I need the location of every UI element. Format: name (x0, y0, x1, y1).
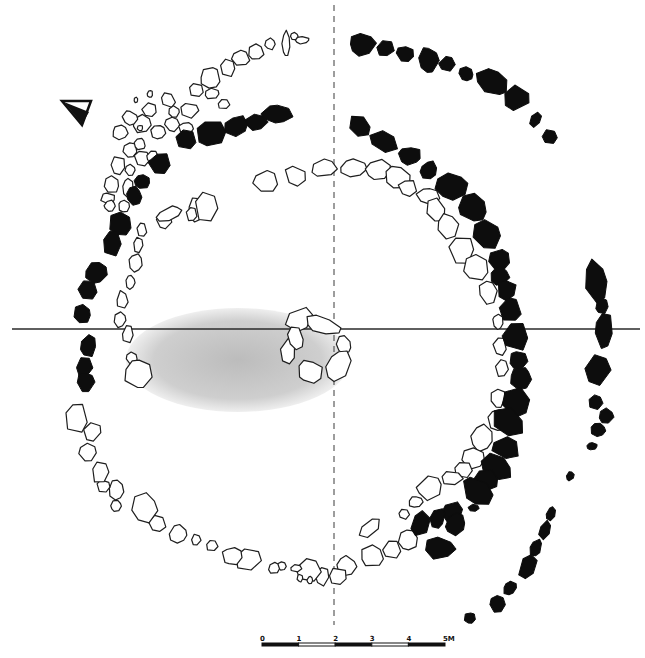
inner-ring-stone (192, 534, 201, 545)
inner-ring-stone (399, 509, 410, 519)
rubble-stone (221, 59, 235, 76)
kerb-stone (366, 127, 401, 156)
scale-segment (408, 643, 445, 646)
kerb-stone (499, 298, 521, 321)
kerb-stone (349, 31, 378, 57)
kerb-stone (426, 537, 457, 559)
outer-stone (490, 596, 506, 613)
inner-ring-stone (341, 159, 367, 177)
inner-ring-stone (66, 404, 87, 432)
scale-label: 4 (406, 635, 411, 643)
rubble-stone (265, 38, 275, 50)
inner-ring-stone (356, 514, 383, 541)
inner-ring-stone (330, 568, 347, 584)
inner-ring-stone (186, 208, 197, 221)
inner-ring-stone (117, 291, 128, 309)
inner-ring-stone (111, 500, 122, 511)
kerb-stone (78, 281, 97, 299)
rubble-stone (113, 125, 128, 140)
outer-stone (464, 613, 475, 623)
scale-label: 3 (370, 635, 375, 643)
inner-ring-stone (383, 541, 401, 558)
scale-label: 0 (260, 635, 265, 643)
north-arrow-icon (62, 101, 91, 125)
rubble-stone (134, 138, 145, 149)
rubble-stone (165, 117, 180, 131)
rubble-stone (104, 176, 118, 192)
rubble-stone (125, 164, 135, 175)
kerb-stone (456, 64, 476, 83)
inner-ring-stone (196, 192, 218, 221)
inner-ring-stone (114, 312, 126, 328)
scale-label: 1 (297, 635, 302, 643)
kerb-stone (104, 232, 122, 257)
inner-ring-stone (464, 255, 488, 280)
kerb-stone (542, 130, 557, 144)
kerb-stone (81, 335, 96, 357)
inner-ring-stone (154, 203, 183, 224)
kerb-stone (221, 114, 250, 140)
outer-stone (581, 257, 611, 305)
outer-stone (591, 423, 606, 436)
inner-ring-stone (126, 275, 135, 289)
inner-ring-stone (398, 181, 416, 197)
inner-ring-stone (409, 497, 423, 507)
kerb-stone (418, 158, 439, 182)
inner-ring-stone (123, 326, 134, 343)
rubble-stone (119, 200, 130, 212)
rubble-stone (137, 126, 142, 131)
inner-ring-stone (134, 237, 143, 252)
scale-bar: 012345M (260, 635, 455, 646)
rubble-stone (134, 97, 137, 103)
rubble-stone (147, 91, 152, 98)
inner-ring-stone (222, 548, 242, 565)
inner-ring-stone (93, 462, 109, 482)
kerb-stone (398, 148, 420, 166)
inner-ring-stone (496, 360, 509, 377)
inner-ring-stone (207, 541, 218, 551)
kerb-stone (134, 175, 149, 189)
kerb-stone (193, 116, 228, 149)
kerb-stone (86, 263, 108, 284)
inner-ring-stone (79, 443, 97, 461)
outer-stone (587, 443, 597, 450)
kerb-stone (377, 41, 395, 56)
kerb-stone (77, 373, 95, 392)
rubble-stone (169, 106, 179, 117)
kerb-stone (176, 130, 196, 149)
rubble-stone (232, 50, 250, 65)
kerb-stone (439, 56, 456, 71)
site-plan: 012345M (0, 0, 645, 658)
rubble-stone (205, 88, 219, 98)
outer-stone (596, 299, 608, 314)
inner-ring-stone (291, 565, 302, 572)
scale-label: 5M (443, 635, 455, 643)
outer-stone (599, 408, 614, 423)
outer-stone (500, 579, 518, 598)
kerb-stone (468, 504, 479, 511)
rubble-stone (190, 84, 204, 97)
kerb-stone (346, 112, 372, 140)
inner-ring-stone (169, 525, 187, 544)
kerb-stone (527, 111, 543, 129)
inner-ring-stone (493, 314, 503, 329)
rubble-stone (291, 32, 299, 39)
rubble-stone (181, 104, 199, 119)
scale-segment (262, 643, 299, 646)
inner-ring-stone (109, 480, 123, 500)
rubble-stone (282, 30, 290, 55)
outer-stone (589, 395, 603, 410)
rubble-stone (142, 103, 156, 117)
inner-ring-stone (253, 171, 278, 192)
rubble-stone (122, 111, 138, 126)
rubble-stone (162, 93, 176, 107)
outer-stone (565, 471, 576, 482)
inner-ring-stone (137, 223, 147, 236)
kerb-stone (511, 368, 532, 390)
rubble-stone (151, 126, 166, 139)
outer-stone (516, 552, 540, 580)
scale-segment (372, 643, 409, 646)
rubble-stone (249, 44, 264, 59)
outer-stone (545, 506, 558, 522)
scale-segment (299, 643, 336, 646)
